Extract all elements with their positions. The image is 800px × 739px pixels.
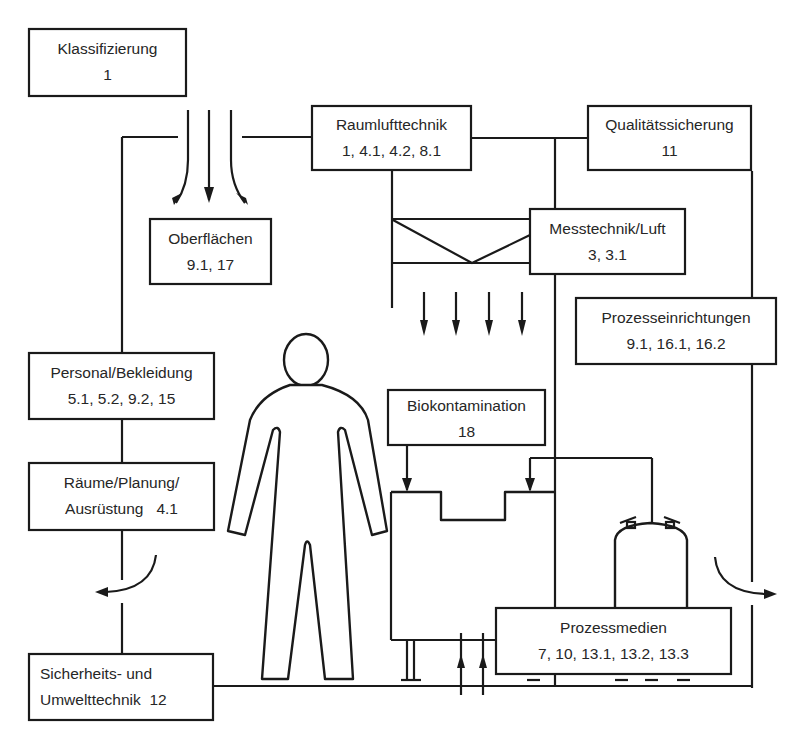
box-title: Räume/Planung/ [29,470,214,496]
box-title: Raumlufttechnik [312,112,471,138]
box-raumlufttechnik: Raumlufttechnik 1, 4.1, 4.2, 8.1 [312,112,471,164]
box-refs: Ausrüstung 4.1 [29,496,214,522]
downflow-arrows-icon [172,110,248,205]
box-refs: 1 [29,62,186,88]
box-refs: 3, 3.1 [530,242,685,268]
box-title: Biokontamination [388,393,545,419]
box-klassifizierung: Klassifizierung 1 [29,36,186,88]
box-title: Prozessmedien [496,615,731,641]
box-title: Klassifizierung [29,36,186,62]
box-title: Prozesseinrichtungen [576,305,776,331]
pressure-vessel-icon [615,517,687,608]
box-personal: Personal/Bekleidung 5.1, 5.2, 9.2, 15 [29,360,214,412]
box-messtechnik: Messtechnik/Luft 3, 3.1 [530,216,685,268]
box-refs: 1, 4.1, 4.2, 8.1 [312,138,471,164]
box-qualitaetssicherung: Qualitätssicherung 11 [588,112,751,164]
box-title: Messtechnik/Luft [530,216,685,242]
box-biokontamination: Biokontamination 18 [388,393,545,445]
box-refs: 7, 10, 13.1, 13.2, 13.3 [496,641,731,667]
box-refs: 9.1, 17 [150,252,271,278]
box-refs: 18 [388,419,545,445]
box-refs: 11 [588,138,751,164]
box-refs: 9.1, 16.1, 16.2 [576,331,776,357]
filter-icon [392,219,530,263]
laminar-flow-arrows-icon [420,292,526,336]
box-title: Qualitätssicherung [588,112,751,138]
box-sicherheit: Sicherheits- und Umwelttechnik 12 [40,661,210,713]
box-raeume: Räume/Planung/ Ausrüstung 4.1 [29,470,214,522]
box-prozessmedien: Prozessmedien 7, 10, 13.1, 13.2, 13.3 [496,615,731,667]
box-title: Sicherheits- und [40,661,210,687]
box-prozesseinrichtungen: Prozesseinrichtungen 9.1, 16.1, 16.2 [576,305,776,357]
box-title: Oberflächen [150,226,271,252]
box-title: Personal/Bekleidung [29,360,214,386]
box-refs: Umwelttechnik 12 [40,687,210,713]
box-refs: 5.1, 5.2, 9.2, 15 [29,386,214,412]
person-coverall-icon [228,334,387,679]
box-oberflaechen: Oberflächen 9.1, 17 [150,226,271,278]
